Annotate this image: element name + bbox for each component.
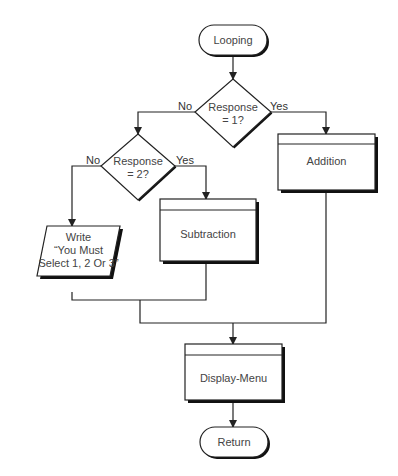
write-label: Write “You Must Select 1, 2 Or 3” [37, 231, 120, 270]
write-label-line1: Write [37, 231, 120, 244]
display-menu-label: Display-Menu [185, 372, 282, 385]
connector-d1-no [138, 112, 195, 134]
addition-label: Addition [278, 155, 375, 168]
decision1-label-line2: = 1? [195, 114, 271, 127]
decision2-label-line1: Response [101, 155, 175, 168]
decision2-yes-label: Yes [176, 154, 194, 166]
end-label: Return [200, 436, 268, 449]
start-label: Looping [199, 34, 267, 47]
decision1-label-line1: Response [195, 101, 271, 114]
decision2-label-line2: = 2? [101, 168, 175, 181]
decision2-label: Response = 2? [101, 155, 175, 181]
write-label-line2: “You Must [37, 244, 120, 257]
decision1-no-label: No [178, 100, 192, 112]
connector-d2-no [72, 166, 101, 226]
subtraction-label: Subtraction [160, 228, 256, 241]
decision1-label: Response = 1? [195, 101, 271, 127]
decision2-no-label: No [86, 154, 100, 166]
connector-d2-yes [175, 166, 206, 199]
write-label-line3: Select 1, 2 Or 3” [37, 257, 120, 270]
connector-d1-yes [271, 112, 326, 134]
decision1-yes-label: Yes [270, 100, 288, 112]
